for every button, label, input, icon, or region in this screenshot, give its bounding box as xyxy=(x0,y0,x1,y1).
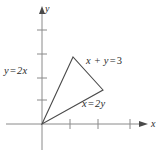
equation-label-x-equals-2y: x=2y xyxy=(82,98,105,109)
equation-label-x-plus-y-equals-3: x + y=3 xyxy=(86,55,122,66)
equation-rhs: 2y xyxy=(95,98,105,109)
x-axis-arrowhead xyxy=(139,121,148,127)
equation-operator: = xyxy=(9,65,17,76)
x-axis-label: x xyxy=(150,118,156,129)
equation-operator: = xyxy=(87,98,95,109)
equation-operator: = xyxy=(109,55,117,66)
equation-rhs: 3 xyxy=(117,55,122,66)
math-figure-cartesian-plot: y x y=2x x + y=3 x=2y xyxy=(0,0,162,155)
equation-label-y-equals-2x: y=2x xyxy=(4,65,27,76)
y-axis-label: y xyxy=(44,3,50,14)
equation-rhs: 2x xyxy=(17,65,27,76)
triangular-region xyxy=(42,57,103,124)
equation-lhs: x + y xyxy=(86,55,109,66)
plot-canvas: y x xyxy=(0,0,162,155)
